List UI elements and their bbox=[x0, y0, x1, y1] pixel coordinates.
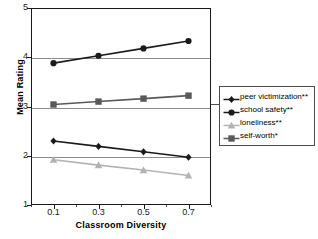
gridline bbox=[32, 157, 210, 158]
x-axis-tick-mark bbox=[99, 205, 100, 209]
x-axis-minor-tick-mark bbox=[121, 205, 122, 207]
x-axis-minor-tick-mark bbox=[211, 205, 212, 207]
plot-area bbox=[31, 8, 211, 205]
x-axis-minor-tick-mark bbox=[76, 205, 77, 207]
x-axis-tick-label: 0.7 bbox=[172, 208, 206, 217]
x-axis-minor-tick-mark bbox=[31, 205, 32, 207]
x-axis-tick-mark bbox=[54, 205, 55, 209]
y-axis-tick-label: 4 bbox=[6, 52, 28, 61]
gridline bbox=[32, 108, 210, 109]
y-axis-title: Mean Rating bbox=[15, 32, 25, 142]
chart-legend: peer victimization**school safety**lonel… bbox=[219, 86, 315, 146]
y-axis-tick-label: 3 bbox=[6, 102, 28, 111]
legend-marker-circle-icon bbox=[223, 104, 240, 115]
x-axis-tick-label: 0.3 bbox=[82, 208, 116, 217]
legend-item-label: self-worth* bbox=[240, 131, 278, 140]
legend-item-label: school safety** bbox=[240, 105, 293, 114]
gridline bbox=[32, 58, 210, 59]
x-axis-tick-mark bbox=[144, 205, 145, 209]
x-axis-title: Classroom Diversity bbox=[30, 220, 212, 230]
legend-item-label: loneliness** bbox=[240, 118, 282, 127]
legend-marker-triangle-icon bbox=[223, 117, 240, 128]
x-axis-tick-mark bbox=[189, 205, 190, 209]
legend-item[interactable]: peer victimization** bbox=[223, 90, 312, 103]
legend-item[interactable]: loneliness** bbox=[223, 116, 312, 129]
y-axis-tick-label: 5 bbox=[6, 3, 28, 12]
diamond-marker bbox=[228, 96, 234, 103]
x-axis-tick-label: 0.5 bbox=[127, 208, 161, 217]
legend-item[interactable]: school safety** bbox=[223, 103, 312, 116]
square-marker bbox=[228, 135, 234, 141]
legend-marker-diamond-icon bbox=[223, 91, 240, 102]
legend-marker-square-icon bbox=[223, 130, 240, 141]
chart-figure: Mean Rating Classroom Diversity 12345 0.… bbox=[0, 0, 318, 239]
legend-item-label: peer victimization** bbox=[240, 92, 308, 101]
legend-item[interactable]: self-worth* bbox=[223, 129, 312, 142]
x-axis-tick-label: 0.1 bbox=[37, 208, 71, 217]
x-axis-minor-tick-mark bbox=[166, 205, 167, 207]
circle-marker bbox=[228, 109, 234, 115]
y-axis-tick-label: 2 bbox=[6, 151, 28, 160]
y-axis-tick-label: 1 bbox=[6, 200, 28, 209]
